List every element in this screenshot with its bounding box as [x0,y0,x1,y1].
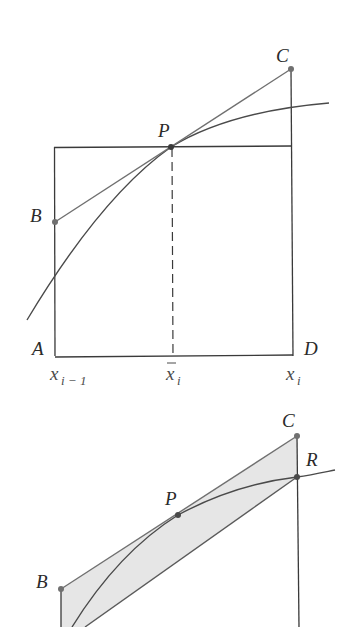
rect-right-side [291,69,293,356]
label-a: A [30,338,44,359]
point-p [175,512,181,518]
svg-text:x: x [49,363,59,384]
label-c: C [282,410,295,431]
right-side [297,436,299,627]
shaded-trapezoid [61,436,297,627]
point-b [58,586,64,592]
svg-text:i: i [177,373,181,388]
rect-bottom-side [55,355,293,357]
label-d: D [303,338,318,359]
point-c [288,66,294,72]
axis-label-x-i: x i [285,363,301,388]
rect-left-side [55,147,56,356]
midpoint-dashed-line [172,148,173,356]
svg-text:x: x [285,363,295,384]
label-b: B [30,205,42,226]
svg-text:i: i [297,373,301,388]
label-b: B [36,571,48,592]
svg-text:i − 1: i − 1 [61,373,86,388]
axis-label-x-bar-i: x i [165,363,181,388]
point-r [294,474,300,480]
label-r: R [305,449,318,470]
label-c: C [276,45,289,66]
figure-top: C P B A D x i − 1 x i x i [27,45,329,388]
figure-bottom: C R P B [36,410,335,627]
point-p [168,144,174,150]
svg-text:x: x [165,363,175,384]
point-b [52,219,58,225]
midpoint-tangent-diagram: C P B A D x i − 1 x i x i [0,0,355,627]
axis-label-x-i-minus-1: x i − 1 [49,363,86,388]
label-p: P [164,488,177,509]
label-p: P [157,120,170,141]
point-c [294,433,300,439]
